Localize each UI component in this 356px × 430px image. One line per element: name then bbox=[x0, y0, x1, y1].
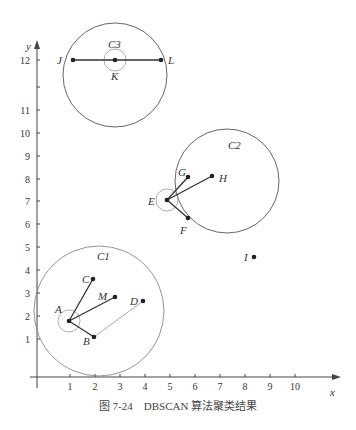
y-axis-arrow-icon bbox=[34, 40, 40, 49]
cluster-c2: C2 G H E F bbox=[147, 129, 279, 236]
y-tick-7: 7 bbox=[25, 196, 30, 207]
point-label-h: H bbox=[218, 172, 228, 184]
y-tick-5: 5 bbox=[25, 242, 30, 253]
cluster-label-c2: C2 bbox=[228, 139, 241, 151]
cluster-c1: C1 C M D A B bbox=[34, 246, 164, 376]
dbscan-diagram: y x 1 2 3 4 5 6 7 8 9 10 1 2 3 4 5 6 7 bbox=[0, 0, 356, 430]
y-tick-8: 8 bbox=[25, 174, 30, 185]
point-label-m: M bbox=[97, 290, 108, 302]
y-tick-2: 2 bbox=[25, 311, 30, 322]
point-label-e: E bbox=[147, 195, 155, 207]
cluster-label-c1: C1 bbox=[97, 250, 110, 262]
point-label-d: D bbox=[129, 295, 138, 307]
x-tick-1: 1 bbox=[68, 381, 73, 392]
y-tick-10: 10 bbox=[20, 128, 30, 139]
y-tick-1: 1 bbox=[25, 334, 30, 345]
point-label-l: L bbox=[167, 54, 174, 66]
cluster-label-c3: C3 bbox=[108, 38, 121, 50]
y-axis-label: y bbox=[25, 40, 31, 52]
point-label-k: K bbox=[110, 70, 119, 82]
point-label-j: J bbox=[57, 54, 63, 66]
x-tick-10: 10 bbox=[290, 381, 300, 392]
point-label-a: A bbox=[54, 303, 62, 315]
x-tick-8: 8 bbox=[243, 381, 248, 392]
x-tick-7: 7 bbox=[218, 381, 223, 392]
y-tick-12: 12 bbox=[20, 55, 30, 66]
x-tick-3: 3 bbox=[118, 381, 123, 392]
x-tick-4: 4 bbox=[143, 381, 148, 392]
y-tick-4: 4 bbox=[25, 265, 30, 276]
point-label-i: I bbox=[243, 251, 249, 263]
x-tick-9: 9 bbox=[268, 381, 273, 392]
y-tick-9: 9 bbox=[25, 151, 30, 162]
point-label-g: G bbox=[178, 166, 186, 178]
y-tick-6: 6 bbox=[25, 219, 30, 230]
point-label-c: C bbox=[82, 273, 90, 285]
point-label-b: B bbox=[83, 335, 90, 347]
point-label-f: F bbox=[179, 224, 187, 236]
x-tick-2: 2 bbox=[93, 381, 98, 392]
x-tick-5: 5 bbox=[168, 381, 173, 392]
noise-point-i: I bbox=[243, 251, 256, 263]
axes bbox=[30, 46, 335, 388]
cluster-c3: C3 J K L bbox=[57, 23, 174, 127]
x-tick-6: 6 bbox=[193, 381, 198, 392]
y-tick-3: 3 bbox=[25, 288, 30, 299]
figure-caption: 图 7-24 DBSCAN 算法聚类结果 bbox=[0, 397, 356, 413]
y-tick-11: 11 bbox=[20, 105, 30, 116]
x-axis-arrow-icon bbox=[332, 374, 341, 380]
